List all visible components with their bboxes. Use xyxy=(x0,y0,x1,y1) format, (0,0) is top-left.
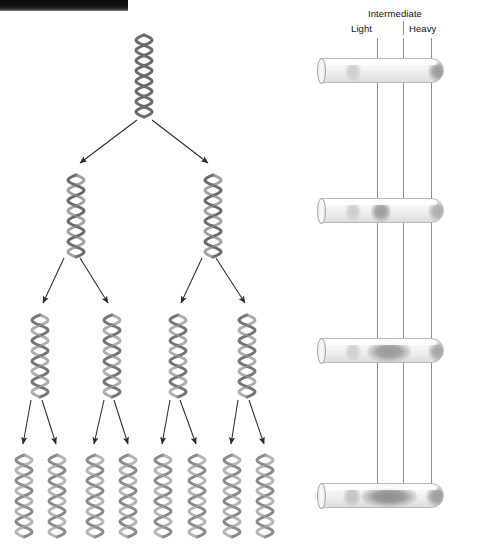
arrow-g2-to-g3-a xyxy=(23,400,31,444)
replication-figure: Intermediate Light Heavy xyxy=(0,0,478,545)
dna-band-heavy xyxy=(428,200,444,223)
arrow-g2-to-g3-d xyxy=(114,400,128,444)
tube-mouth xyxy=(317,198,326,224)
arrow-g0-to-g1-right xyxy=(152,120,208,163)
tube-generation-2 xyxy=(312,338,444,363)
dna-helix-g3-4 xyxy=(115,452,141,544)
dna-helix-g1-1 xyxy=(63,172,89,264)
tube-body xyxy=(320,198,444,223)
dna-band-light xyxy=(343,485,361,508)
label-light: Light xyxy=(351,23,372,34)
dna-helix-g3-6 xyxy=(184,452,210,544)
dna-helix-g0-1 xyxy=(131,32,157,124)
arrow-g0-to-g1-left xyxy=(80,120,137,163)
tube-body xyxy=(320,58,444,83)
dna-band-intermediate xyxy=(371,200,391,223)
arrow-g1-to-g2-d xyxy=(216,258,245,303)
tube-generation-1 xyxy=(312,198,444,223)
heavy-guide xyxy=(431,38,432,504)
light-guide xyxy=(377,38,378,504)
dna-helix-g3-2 xyxy=(44,452,70,544)
arrow-g1-to-g2-a xyxy=(43,258,64,303)
label-divider xyxy=(403,21,404,35)
dna-helix-g3-3 xyxy=(82,452,108,544)
dna-helix-g2-4 xyxy=(234,312,260,404)
dna-band-intermediate xyxy=(367,340,411,363)
tube-body xyxy=(320,483,444,508)
arrow-g2-to-g3-g xyxy=(231,400,238,444)
dna-helix-g3-7 xyxy=(219,452,245,544)
label-heavy: Heavy xyxy=(409,23,436,34)
tube-body xyxy=(320,338,444,363)
arrow-g2-to-g3-e xyxy=(162,400,170,444)
arrow-g2-to-g3-c xyxy=(94,400,104,444)
tube-mouth xyxy=(317,58,326,84)
dna-band-heavy xyxy=(428,60,444,83)
dna-helix-g2-2 xyxy=(99,312,125,404)
dna-band-intermediate xyxy=(361,485,417,508)
dna-band-light xyxy=(345,200,361,223)
dna-band-heavy xyxy=(428,340,444,363)
arrow-g2-to-g3-h xyxy=(249,400,264,444)
dna-helix-g3-8 xyxy=(252,452,278,544)
dna-helix-g3-5 xyxy=(150,452,176,544)
dna-band-light xyxy=(345,340,361,363)
tube-mouth xyxy=(317,338,326,364)
arrow-g1-to-g2-c xyxy=(181,258,202,303)
tube-mouth xyxy=(317,483,326,509)
tube-generation-0 xyxy=(312,58,444,83)
arrow-g2-to-g3-b xyxy=(42,400,56,444)
tube-generation-3 xyxy=(312,483,444,508)
arrow-g2-to-g3-f xyxy=(180,400,196,444)
dna-helix-g2-1 xyxy=(27,312,53,404)
dna-helix-g3-1 xyxy=(11,452,37,544)
dna-band-light xyxy=(345,60,361,83)
arrow-g1-to-g2-b xyxy=(80,258,108,303)
intermediate-guide xyxy=(403,38,404,504)
dna-helix-g2-3 xyxy=(165,312,191,404)
label-intermediate: Intermediate xyxy=(368,8,422,19)
dna-helix-g1-2 xyxy=(200,172,226,264)
dna-band-heavy xyxy=(426,485,444,508)
